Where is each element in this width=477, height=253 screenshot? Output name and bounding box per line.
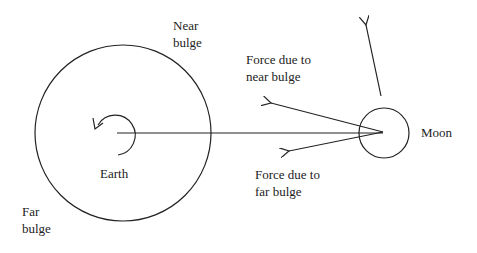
earth-label: Earth (100, 165, 128, 182)
tidal-diagram (0, 0, 477, 253)
orbital-direction-arrow (366, 25, 381, 96)
force-far-bulge-arrow (289, 132, 383, 151)
rotation-arrow-icon (98, 115, 135, 155)
force-far-bulge-label: Force due to far bulge (255, 166, 320, 200)
near-bulge-label: Near bulge (173, 17, 202, 51)
force-near-bulge-arrow (271, 103, 383, 132)
far-bulge-label: Far bulge (22, 203, 51, 237)
moon-label: Moon (421, 124, 452, 141)
force-near-bulge-label: Force due to near bulge (246, 51, 311, 85)
